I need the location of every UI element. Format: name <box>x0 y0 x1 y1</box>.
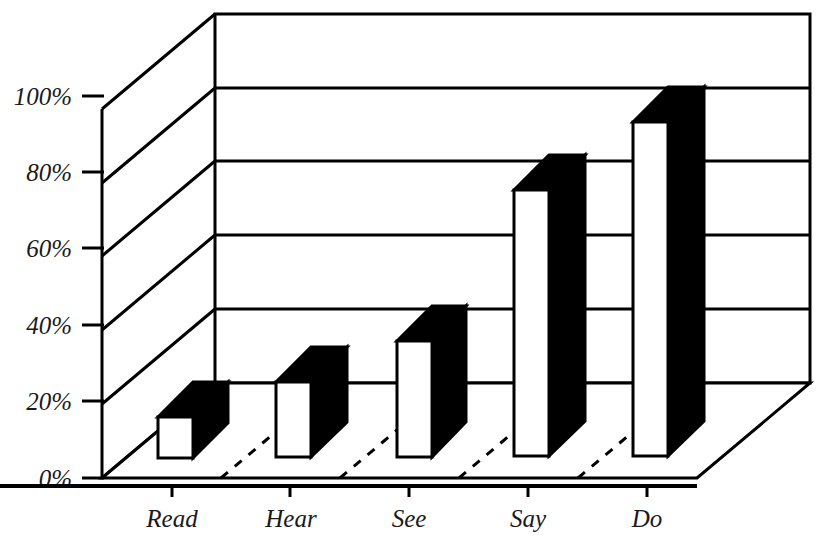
bar-read-front-face <box>158 417 193 458</box>
category-label-see: See <box>392 505 427 532</box>
y-axis-labels: 100% 80% 60% 40% 20% 0% <box>14 83 72 492</box>
x-axis-category-labels: Read Hear See Say Do <box>145 505 662 532</box>
bar-say-front-face <box>514 190 549 456</box>
depth-line-80 <box>102 88 215 183</box>
y-axis-label-60: 60% <box>26 235 72 262</box>
bar-do-front-face <box>633 122 668 456</box>
bar-chart-3d: 100% 80% 60% 40% 20% 0% <box>0 0 822 540</box>
bar-do[interactable] <box>631 87 706 458</box>
bar-hear-front-face <box>276 382 311 457</box>
bar-say[interactable] <box>512 155 587 458</box>
depth-line-60 <box>102 161 215 256</box>
category-label-do: Do <box>631 505 663 532</box>
chart-container: 100% 80% 60% 40% 20% 0% <box>0 0 822 540</box>
x-axis <box>0 486 697 497</box>
category-label-read: Read <box>145 505 198 532</box>
depth-line-100 <box>102 14 215 109</box>
bar-do-side-face <box>668 87 704 456</box>
category-label-hear: Hear <box>264 505 317 532</box>
bar-say-side-face <box>549 155 585 456</box>
y-axis-label-80: 80% <box>26 159 72 186</box>
category-label-say: Say <box>510 505 547 532</box>
depth-line-40 <box>102 235 215 330</box>
y-axis-label-100: 100% <box>14 83 72 110</box>
y-axis-label-40: 40% <box>26 312 72 339</box>
bar-see-front-face <box>397 341 432 457</box>
y-axis-label-20: 20% <box>26 388 72 415</box>
